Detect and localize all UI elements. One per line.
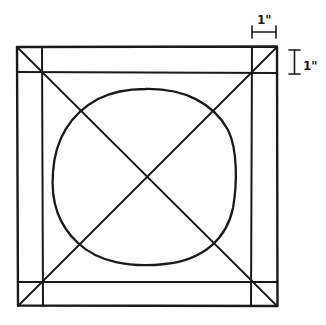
inner-right-line bbox=[251, 47, 252, 306]
horizontal-dimension-marker: 1" bbox=[252, 13, 276, 38]
vertical-dimension-marker: 1" bbox=[289, 50, 318, 74]
horizontal-dimension-label: 1" bbox=[257, 13, 272, 27]
quilt-block-diagram: 1" 1" bbox=[0, 0, 326, 325]
inner-left-line bbox=[42, 47, 43, 306]
inner-top-line bbox=[17, 72, 277, 73]
vertical-dimension-label: 1" bbox=[303, 59, 318, 73]
